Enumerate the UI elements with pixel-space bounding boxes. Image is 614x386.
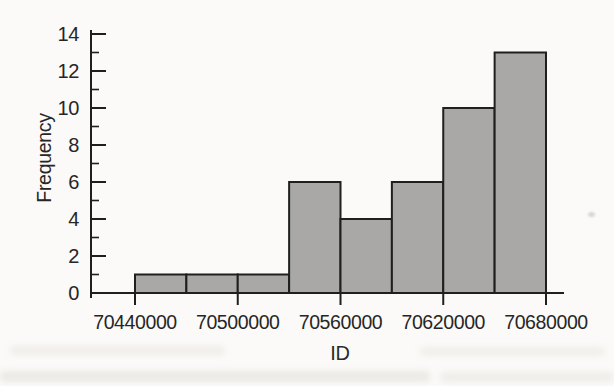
histogram-bar: [135, 275, 186, 294]
histogram-bar: [495, 53, 546, 294]
x-tick-label: 70560000: [299, 311, 383, 333]
y-tick-label: 8: [68, 134, 79, 156]
y-tick-label: 12: [58, 60, 80, 82]
scanned-histogram-figure: 0246810121470440000705000007056000070620…: [0, 0, 614, 386]
x-tick-label: 70440000: [93, 311, 177, 333]
x-tick-label: 70500000: [196, 311, 280, 333]
y-tick-label: 0: [68, 282, 79, 304]
histogram-bar: [186, 275, 237, 294]
y-tick-label: 6: [68, 171, 79, 193]
y-tick-label: 10: [58, 97, 80, 119]
x-tick-label: 70680000: [504, 311, 588, 333]
y-axis-title: Frequency: [33, 113, 56, 202]
x-axis-title: ID: [330, 342, 349, 365]
y-tick-label: 14: [58, 23, 80, 45]
histogram-bar: [238, 275, 289, 294]
histogram-bar: [341, 219, 392, 293]
histogram-bar: [443, 108, 494, 293]
histogram-bar: [289, 182, 340, 293]
y-tick-label: 4: [68, 208, 79, 230]
x-tick-label: 70620000: [401, 311, 485, 333]
histogram-plot: 0246810121470440000705000007056000070620…: [0, 0, 614, 386]
y-tick-label: 2: [68, 245, 79, 267]
histogram-bar: [392, 182, 443, 293]
